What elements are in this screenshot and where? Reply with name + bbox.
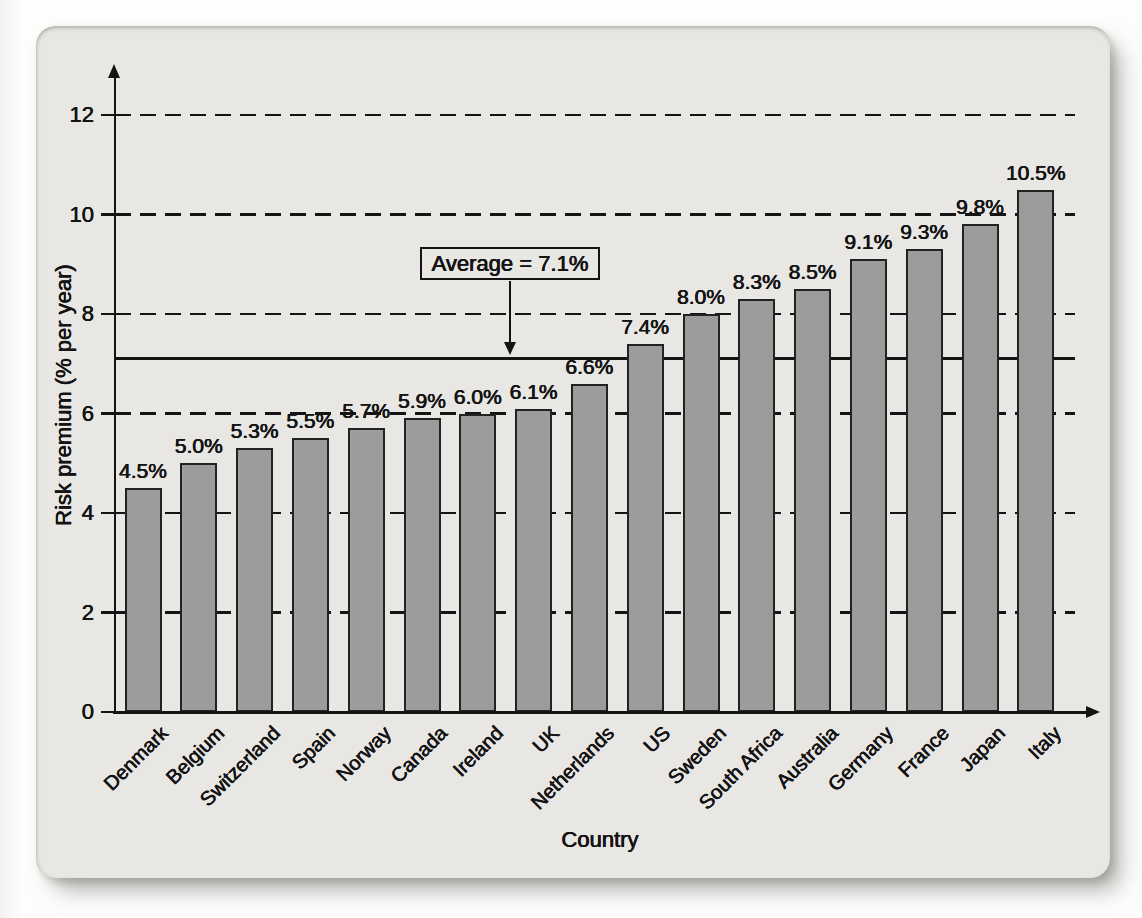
average-annotation-arrowhead-icon (504, 342, 516, 355)
y-tick-label-4: 4 (34, 500, 94, 526)
bar-spain (292, 438, 329, 712)
bar-value-label-uk: 6.1% (489, 380, 579, 404)
bar-us (627, 344, 664, 712)
y-tick-label-10: 10 (34, 202, 94, 228)
bar-denmark (125, 488, 162, 712)
y-tick-10 (101, 213, 114, 216)
bar-ireland (459, 414, 496, 713)
bar-japan (962, 224, 999, 712)
bar-value-label-denmark: 4.5% (98, 459, 188, 483)
bar-germany (850, 259, 887, 712)
x-axis-line (113, 711, 1088, 714)
bar-norway (348, 428, 385, 712)
x-axis-arrowhead-icon (1086, 706, 1100, 718)
bar-value-label-us: 7.4% (600, 315, 690, 339)
bar-sweden (683, 314, 720, 712)
bar-value-label-japan: 9.8% (935, 195, 1025, 219)
y-tick-label-6: 6 (34, 401, 94, 427)
risk-premium-bar-chart: Risk premium (% per year) Country 024681… (0, 0, 1142, 918)
y-tick-label-8: 8 (34, 301, 94, 327)
bar-italy (1017, 190, 1054, 712)
bar-switzerland (236, 448, 273, 712)
y-axis-arrowhead-icon (108, 64, 120, 78)
bar-value-label-france: 9.3% (879, 220, 969, 244)
y-tick-8 (101, 313, 114, 316)
bar-australia (794, 289, 831, 712)
gridline-y-12 (115, 114, 1075, 116)
bar-value-label-italy: 10.5% (991, 161, 1081, 185)
bar-uk (515, 409, 552, 712)
y-tick-label-0: 0 (34, 699, 94, 725)
average-annotation-arrow-line (509, 281, 512, 343)
y-tick-2 (101, 611, 114, 614)
gridline-y-10 (115, 213, 1075, 215)
average-annotation-box: Average = 7.1% (420, 247, 600, 280)
bar-netherlands (571, 384, 608, 712)
y-tick-12 (101, 114, 114, 117)
scanned-page: Risk premium (% per year) Country 024681… (0, 0, 1142, 918)
y-tick-4 (101, 512, 114, 515)
bar-value-label-netherlands: 6.6% (544, 355, 634, 379)
y-tick-label-12: 12 (34, 102, 94, 128)
average-annotation-label: Average = 7.1% (432, 251, 589, 277)
bar-belgium (180, 463, 217, 712)
bar-value-label-australia: 8.5% (768, 260, 858, 284)
bar-south-africa (738, 299, 775, 712)
y-tick-label-2: 2 (34, 600, 94, 626)
bar-canada (404, 418, 441, 712)
y-tick-6 (101, 412, 114, 415)
bar-france (906, 249, 943, 712)
y-axis-line (114, 76, 117, 714)
